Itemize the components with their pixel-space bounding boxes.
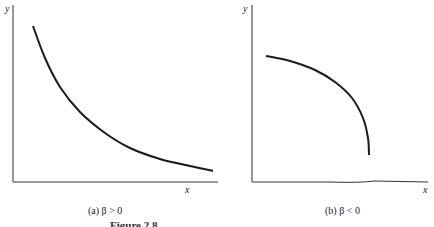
right-x-label: x [423, 184, 427, 195]
right-panel-caption: (b) β < 0 [325, 205, 360, 216]
right-x-axis [252, 181, 428, 182]
figure-caption: Figure 2.8 [110, 219, 157, 227]
right-curve [266, 56, 369, 155]
left-curve [33, 26, 213, 171]
right-y-label: y [243, 3, 247, 14]
figure-canvas [0, 0, 434, 227]
left-x-label: x [185, 184, 189, 195]
left-panel-caption: (a) β > 0 [88, 205, 122, 216]
left-y-label: y [5, 3, 9, 14]
